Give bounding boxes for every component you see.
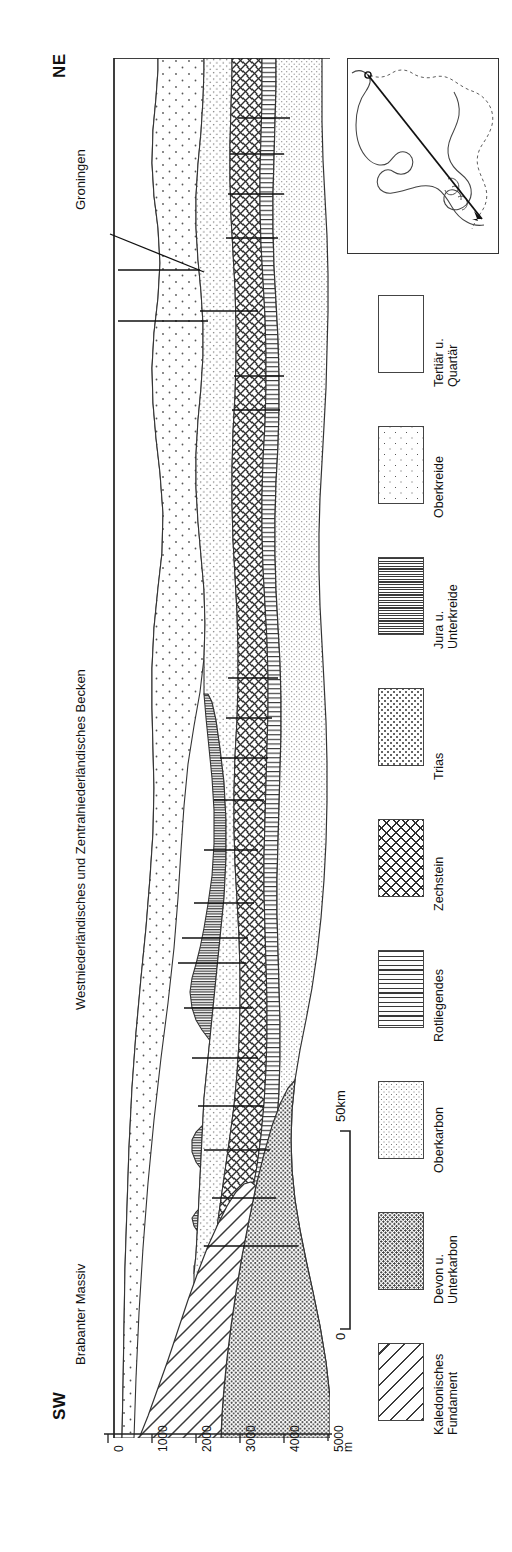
legend-label-rotliegend: Rotliegendes (432, 969, 446, 1042)
legend-swatch-tertiary-quaternary (378, 295, 424, 373)
scale-bar (336, 1125, 358, 1335)
legend-item: Rotliegendes (370, 950, 512, 1070)
inset-map-drawing (348, 59, 497, 252)
cross-section-panel (108, 58, 330, 1438)
place-label-basin: Westniederländisches und Zentralniederlä… (74, 669, 89, 1010)
legend-item: Trias (370, 688, 512, 808)
legend-label-triassic: Trias (432, 753, 446, 780)
legend-item: Kaledonisches Fundament (370, 1343, 512, 1463)
legend-swatch-jurassic-lower-cretaceous (378, 557, 424, 635)
figure-root: NE SW Groningen Westniederländisches und… (0, 0, 512, 1552)
depth-tick-label: 3000 (245, 1425, 259, 1452)
scale-bar-end-label: 50km (334, 1090, 349, 1122)
inset-locality-map (347, 58, 499, 254)
legend-swatch-zechstein (378, 819, 424, 897)
legend-swatch-upper-cretaceous (378, 426, 424, 504)
inset-section-line (368, 75, 482, 219)
depth-axis-unit: m (342, 1442, 356, 1452)
depth-tick-label: 0 (113, 1445, 127, 1452)
cross-section-drawing (108, 58, 330, 1438)
depth-tick-label: 4000 (289, 1425, 303, 1452)
legend-item: Devon u. Unterkarbon (370, 1212, 512, 1332)
legend-label-tertiary-quaternary: Tertiär u. Quartär (432, 338, 461, 387)
legend: Tertiär u. QuartärOberkreideJura u. Unte… (370, 280, 512, 1460)
depth-axis (100, 1432, 340, 1446)
legend-swatch-rotliegend (378, 950, 424, 1028)
place-label-brabant: Brabanter Massiv (74, 1264, 89, 1365)
orientation-label-sw: SW (50, 1392, 70, 1420)
legend-label-upper-carboniferous: Oberkarbon (432, 1107, 446, 1173)
legend-label-upper-cretaceous: Oberkreide (432, 456, 446, 518)
place-label-groningen: Groningen (74, 149, 89, 210)
legend-swatch-caledonian-basement (378, 1343, 424, 1421)
legend-label-caledonian-basement: Kaledonisches Fundament (432, 1354, 461, 1435)
depth-tick-label: 1000 (157, 1425, 171, 1452)
legend-label-jurassic-lower-cretaceous: Jura u. Unterkreide (432, 584, 461, 649)
legend-item: Oberkarbon (370, 1081, 512, 1201)
legend-label-zechstein: Zechstein (432, 857, 446, 911)
legend-item: Jura u. Unterkreide (370, 557, 512, 677)
legend-swatch-upper-carboniferous (378, 1081, 424, 1159)
legend-item: Zechstein (370, 819, 512, 939)
legend-swatch-devonian-lower-carboniferous (378, 1212, 424, 1290)
legend-item: Tertiär u. Quartär (370, 295, 512, 415)
depth-tick-label: 2000 (201, 1425, 215, 1452)
legend-swatch-triassic (378, 688, 424, 766)
legend-item: Oberkreide (370, 426, 512, 546)
legend-label-devonian-lower-carboniferous: Devon u. Unterkarbon (432, 1235, 461, 1304)
orientation-label-ne: NE (50, 53, 70, 78)
scale-bar-start-label: 0 (334, 1333, 349, 1340)
